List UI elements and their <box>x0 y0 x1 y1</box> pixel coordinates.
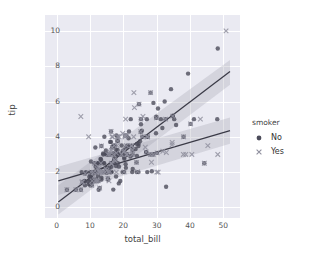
y-tick-label: 4 <box>38 133 60 141</box>
legend-title: smoker <box>252 118 308 127</box>
data-point <box>224 29 229 34</box>
data-point <box>130 170 134 174</box>
x-tick-label: 40 <box>178 222 202 230</box>
data-point <box>151 101 155 105</box>
data-point <box>111 187 115 191</box>
legend-item-label: No <box>271 133 282 142</box>
data-point <box>102 135 106 139</box>
data-point <box>150 169 154 173</box>
data-point <box>99 157 103 161</box>
data-point <box>123 117 128 122</box>
data-point <box>110 135 115 140</box>
legend-item-label: Yes <box>271 147 284 156</box>
data-point <box>132 105 137 110</box>
data-point <box>114 174 118 178</box>
legend: smoker NoYes <box>252 118 308 159</box>
x-tick-label: 50 <box>211 222 235 230</box>
data-marks-layer <box>45 15 240 218</box>
data-point <box>156 106 160 110</box>
data-point <box>117 181 121 185</box>
x-tick-label: 20 <box>111 222 135 230</box>
data-point <box>127 129 131 133</box>
data-point <box>108 140 112 144</box>
data-point <box>79 114 84 119</box>
y-tick-label: 2 <box>38 168 60 176</box>
y-axis-label: tip <box>7 90 17 130</box>
x-axis-label: total_bill <box>45 234 240 244</box>
data-point <box>186 71 190 75</box>
plot-area <box>45 15 240 218</box>
legend-item-yes[interactable]: Yes <box>252 145 308 157</box>
data-point <box>145 117 149 121</box>
data-point <box>198 117 203 122</box>
data-point <box>86 135 91 140</box>
data-point <box>110 135 115 140</box>
data-point <box>159 117 163 121</box>
data-point <box>119 143 123 147</box>
data-point <box>141 114 146 119</box>
x-tick-label: 30 <box>145 222 169 230</box>
data-point <box>164 185 168 189</box>
data-point <box>135 154 139 158</box>
data-point <box>138 139 142 143</box>
x-marker-icon <box>252 142 266 161</box>
figure: 0246810 01020304050 total_bill tip smoke… <box>0 0 309 271</box>
x-tick-label: 10 <box>78 222 102 230</box>
y-tick-label: 6 <box>38 98 60 106</box>
legend-entries: NoYes <box>252 131 308 157</box>
data-point <box>169 87 173 91</box>
data-point <box>139 122 143 126</box>
data-point <box>145 170 149 174</box>
data-point <box>174 123 178 127</box>
data-point <box>154 131 158 135</box>
data-point <box>162 99 166 103</box>
data-point <box>215 152 220 157</box>
data-point <box>101 152 105 156</box>
data-point <box>216 46 220 50</box>
data-point <box>215 117 219 121</box>
data-point <box>117 164 121 168</box>
data-point <box>93 145 97 149</box>
x-tick-label: 0 <box>45 222 69 230</box>
y-tick-label: 10 <box>38 27 60 35</box>
y-tick-label: 0 <box>38 203 60 211</box>
data-point <box>129 117 133 121</box>
data-point <box>136 144 140 148</box>
data-point <box>160 126 164 130</box>
data-point <box>192 117 196 121</box>
data-point <box>132 90 137 95</box>
y-tick-label: 8 <box>38 62 60 70</box>
